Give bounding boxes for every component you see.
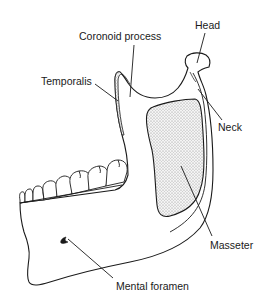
label-masseter: Masseter [210, 239, 253, 251]
label-neck: Neck [218, 121, 242, 133]
label-mental-foramen: Mental foramen [116, 280, 189, 292]
mandible-illustration [0, 0, 270, 308]
label-head: Head [195, 19, 220, 31]
mandible-diagram: Head Coronoid process Temporalis Neck Ma… [0, 0, 270, 308]
label-temporalis: Temporalis [41, 75, 92, 87]
label-coronoid-process: Coronoid process [79, 30, 161, 42]
